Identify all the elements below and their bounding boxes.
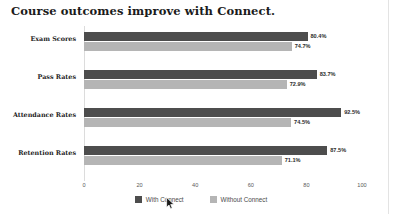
bar-row[interactable]: 72.9% [84,80,362,89]
legend-item[interactable]: Without Connect [210,196,268,203]
chart-legend: With ConnectWithout Connect [0,196,402,203]
bar-row[interactable]: 71.1% [84,156,362,165]
legend-item[interactable]: With Connect [135,196,184,203]
category-axis-labels: Exam ScoresPass RatesAttendance RatesRet… [0,26,76,181]
bar-with-connect[interactable] [84,32,308,41]
legend-swatch-icon [135,196,142,203]
bar-with-connect[interactable] [84,108,341,117]
category-label: Retention Rates [18,149,76,157]
bar-row[interactable]: 74.7% [84,42,362,51]
x-axis-tick: 80 [303,182,309,188]
category-label: Pass Rates [38,73,76,81]
x-axis-tick: 20 [136,182,142,188]
bar-value-label: 74.7% [295,42,311,51]
bar-without-connect[interactable] [84,80,287,89]
bar-group: 80.4%74.7% [84,32,362,52]
bar-value-label: 72.9% [290,80,306,89]
bar-with-connect[interactable] [84,70,317,79]
bar-row[interactable]: 80.4% [84,32,362,41]
bar-value-label: 74.5% [294,118,310,127]
legend-label: With Connect [146,196,184,203]
bar-value-label: 92.5% [344,108,360,117]
plot-area: 80.4%74.7%83.7%72.9%92.5%74.5%87.5%71.1% [84,26,362,181]
bar-with-connect[interactable] [84,146,327,155]
bar-row[interactable]: 74.5% [84,118,362,127]
bar-value-label: 71.1% [285,156,301,165]
bar-group: 92.5%74.5% [84,108,362,128]
legend-swatch-icon [210,196,217,203]
bar-group: 87.5%71.1% [84,146,362,166]
x-axis: 020406080100 [84,182,362,194]
category-label: Attendance Rates [13,111,76,119]
x-axis-tick: 60 [248,182,254,188]
category-label: Exam Scores [30,35,76,43]
x-axis-tick: 100 [357,182,366,188]
x-axis-tick: 40 [192,182,198,188]
bar-without-connect[interactable] [84,156,282,165]
bar-group: 83.7%72.9% [84,70,362,90]
bar-without-connect[interactable] [84,118,291,127]
chart-page: Course outcomes improve with Connect. Ex… [0,0,402,214]
bar-row[interactable]: 87.5% [84,146,362,155]
chart-title: Course outcomes improve with Connect. [11,4,275,18]
bar-value-label: 83.7% [320,70,336,79]
legend-label: Without Connect [221,196,268,203]
bar-row[interactable]: 83.7% [84,70,362,79]
bar-value-label: 87.5% [330,146,346,155]
x-axis-tick: 0 [82,182,85,188]
bar-without-connect[interactable] [84,42,292,51]
page-right-edge [388,0,389,214]
bar-value-label: 80.4% [311,32,327,41]
bar-row[interactable]: 92.5% [84,108,362,117]
